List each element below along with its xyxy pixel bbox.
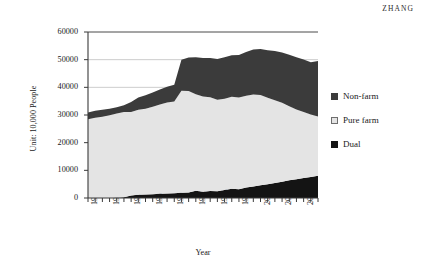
legend-swatch-icon <box>331 93 338 100</box>
legend-swatch-icon <box>331 141 338 148</box>
running-head: ZHANG <box>382 4 414 13</box>
legend-item-dual[interactable]: Dual <box>331 132 421 156</box>
legend-item-pure-farm[interactable]: Pure farm <box>331 108 421 132</box>
legend-label: Pure farm <box>343 115 379 125</box>
chart-legend: Non-farmPure farmDual <box>331 84 421 156</box>
figure-stacked-area-chart: Unit: 10,000 People Year 010000200003000… <box>0 18 424 267</box>
legend-swatch-icon <box>331 117 338 124</box>
legend-label: Dual <box>343 139 361 149</box>
legend-label: Non-farm <box>343 91 379 101</box>
legend-item-non-farm[interactable]: Non-farm <box>331 84 421 108</box>
